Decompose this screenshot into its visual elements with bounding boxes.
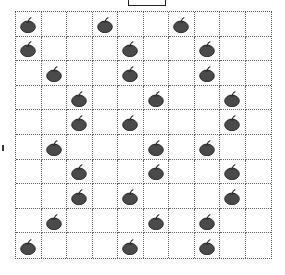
apple-icon: [71, 189, 88, 205]
grid-cell: [67, 12, 93, 37]
grid-cell: [246, 233, 272, 258]
grid-cell: [67, 110, 93, 135]
apple-icon: [20, 239, 37, 255]
grid-cell: [220, 110, 246, 135]
side-mark: [2, 145, 4, 151]
grid-cell: [118, 160, 144, 185]
grid-cell: [16, 110, 42, 135]
grid-cell: [93, 209, 119, 234]
apple-icon: [122, 115, 139, 131]
grid-cell: [144, 135, 170, 160]
grid-cell: [118, 110, 144, 135]
apple-icon: [45, 66, 62, 82]
grid-cell: [16, 233, 42, 258]
grid-cell: [195, 233, 221, 258]
grid-cell: [220, 37, 246, 62]
apple-icon: [224, 91, 241, 107]
grid-cell: [118, 86, 144, 111]
grid-cell: [195, 135, 221, 160]
apple-icon: [20, 17, 37, 33]
apple-icon: [122, 239, 139, 255]
apple-icon: [224, 164, 241, 180]
grid-cell: [42, 12, 68, 37]
grid-cell: [169, 135, 195, 160]
grid-cell: [169, 184, 195, 209]
apple-icon: [224, 189, 241, 205]
grid-cell: [246, 110, 272, 135]
grid-cell: [42, 160, 68, 185]
grid-cell: [195, 37, 221, 62]
grid-cell: [16, 61, 42, 86]
grid-cell: [93, 12, 119, 37]
apple-icon: [122, 66, 139, 82]
grid-cell: [42, 135, 68, 160]
grid-cell: [246, 37, 272, 62]
grid-cell: [67, 160, 93, 185]
grid-cell: [67, 135, 93, 160]
grid-cell: [195, 86, 221, 111]
grid-cell: [144, 160, 170, 185]
grid-cell: [16, 37, 42, 62]
grid-cell: [246, 61, 272, 86]
grid-cell: [246, 86, 272, 111]
grid-cell: [16, 86, 42, 111]
apple-icon: [147, 140, 164, 156]
grid-cell: [93, 86, 119, 111]
grid-cell: [169, 160, 195, 185]
grid-cell: [169, 209, 195, 234]
grid-cell: [16, 184, 42, 209]
grid-cell: [42, 233, 68, 258]
apple-icon: [96, 17, 113, 33]
grid-cell: [67, 86, 93, 111]
grid-cell: [144, 61, 170, 86]
grid-cell: [42, 110, 68, 135]
grid-cell: [169, 12, 195, 37]
apple-icon: [122, 41, 139, 57]
grid-cell: [169, 86, 195, 111]
apple-icon: [147, 164, 164, 180]
grid-cell: [93, 110, 119, 135]
grid-cell: [144, 209, 170, 234]
grid-cell: [16, 12, 42, 37]
grid-cell: [118, 61, 144, 86]
grid-cell: [220, 209, 246, 234]
grid-cell: [93, 37, 119, 62]
grid-cell: [195, 160, 221, 185]
grid-cell: [144, 233, 170, 258]
grid-cell: [195, 12, 221, 37]
apple-icon: [122, 189, 139, 205]
grid-cell: [220, 135, 246, 160]
grid-cell: [246, 12, 272, 37]
grid-cell: [220, 12, 246, 37]
grid-cell: [195, 61, 221, 86]
grid-cell: [16, 135, 42, 160]
grid-cell: [42, 37, 68, 62]
grid-cell: [246, 135, 272, 160]
grid-cell: [93, 184, 119, 209]
apple-icon: [198, 214, 215, 230]
grid-cell: [16, 209, 42, 234]
grid-cell: [195, 209, 221, 234]
grid-cell: [42, 184, 68, 209]
grid-cell: [220, 61, 246, 86]
grid-cell: [220, 233, 246, 258]
grid-cell: [118, 37, 144, 62]
grid-cell: [67, 37, 93, 62]
grid-cell: [220, 184, 246, 209]
grid-cell: [118, 209, 144, 234]
grid-cell: [144, 110, 170, 135]
apple-grid: [15, 11, 272, 259]
grid-cell: [195, 110, 221, 135]
grid-cell: [118, 12, 144, 37]
grid-cell: [42, 61, 68, 86]
apple-icon: [71, 115, 88, 131]
grid-cell: [169, 61, 195, 86]
grid-cell: [118, 233, 144, 258]
top-label-box: [128, 0, 166, 6]
grid-cell: [144, 12, 170, 37]
grid-cell: [195, 184, 221, 209]
apple-icon: [147, 91, 164, 107]
apple-icon: [45, 214, 62, 230]
apple-icon: [198, 140, 215, 156]
grid-cell: [16, 160, 42, 185]
